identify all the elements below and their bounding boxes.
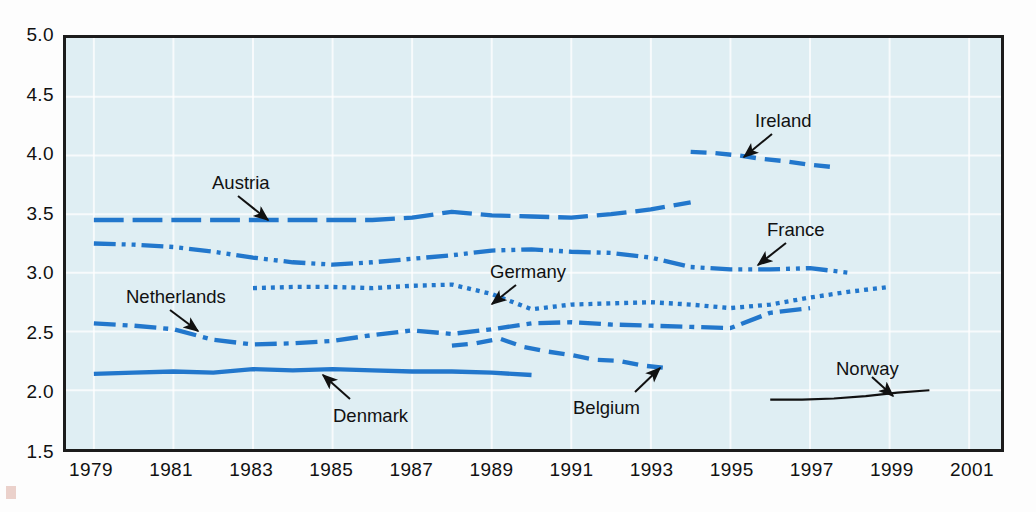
page-artifact xyxy=(6,486,16,499)
y-tick-label: 4.0 xyxy=(2,143,54,165)
y-tick-label: 5.0 xyxy=(2,24,54,46)
series-label-norway: Norway xyxy=(836,358,899,380)
x-tick-label: 1999 xyxy=(857,459,927,481)
x-tick-label: 1979 xyxy=(56,459,126,481)
x-tick-label: 1983 xyxy=(216,459,286,481)
x-tick-label: 1997 xyxy=(777,459,847,481)
x-tick-label: 1985 xyxy=(296,459,366,481)
y-tick-label: 2.5 xyxy=(2,322,54,344)
series-label-netherlands: Netherlands xyxy=(126,286,226,308)
y-tick-label: 4.5 xyxy=(2,84,54,106)
y-tick-label: 2.0 xyxy=(2,381,54,403)
x-tick-label: 1981 xyxy=(136,459,206,481)
chart-figure: 1.52.02.53.03.54.04.55.0 197919811983198… xyxy=(0,0,1036,512)
series-label-ireland: Ireland xyxy=(755,110,812,132)
x-tick-label: 1995 xyxy=(697,459,767,481)
x-tick-label: 1993 xyxy=(617,459,687,481)
series-label-austria: Austria xyxy=(212,172,270,194)
y-tick-label: 3.0 xyxy=(2,262,54,284)
x-tick-label: 1989 xyxy=(456,459,526,481)
x-tick-label: 2001 xyxy=(937,459,1007,481)
y-tick-label: 1.5 xyxy=(2,441,54,463)
x-tick-label: 1987 xyxy=(376,459,446,481)
y-tick-label: 3.5 xyxy=(2,203,54,225)
series-label-france: France xyxy=(767,219,825,241)
series-label-germany: Germany xyxy=(490,261,566,283)
x-tick-label: 1991 xyxy=(537,459,607,481)
series-label-denmark: Denmark xyxy=(333,405,408,427)
series-label-belgium: Belgium xyxy=(573,397,640,419)
annotation-arrows xyxy=(0,0,1036,512)
